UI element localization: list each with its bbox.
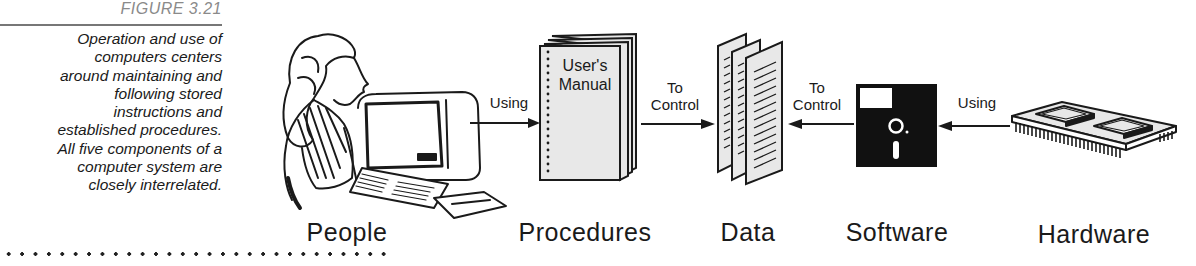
arrow-right-icon <box>470 117 540 129</box>
floppy-disk-icon <box>856 84 938 168</box>
arrow-label-line1: To <box>640 79 710 96</box>
arrow-label-line2: Control <box>640 96 710 113</box>
caption-rule <box>0 24 222 26</box>
component-label-data: Data <box>708 218 788 246</box>
component-label-procedures: Procedures <box>510 218 660 246</box>
arrow-label-to-control-2: To Control <box>782 79 852 113</box>
arrow-label-line1: To <box>782 79 852 96</box>
arrow-label-line2: Control <box>782 96 852 113</box>
manual-title: User's Manual <box>552 56 618 94</box>
manual-title-line1: User's <box>552 56 618 75</box>
arrow-label-to-control-1: To Control <box>640 79 710 113</box>
documents-icon <box>716 32 788 186</box>
manual-title-line2: Manual <box>552 75 618 94</box>
component-label-software: Software <box>832 218 962 246</box>
arrow-right-icon <box>641 118 715 130</box>
component-label-people: People <box>292 218 402 246</box>
component-label-hardware: Hardware <box>1024 220 1164 248</box>
circuit-board-icon <box>1010 98 1190 170</box>
arrow-label-using-2: Using <box>944 94 1010 111</box>
arrow-left-icon <box>788 118 854 130</box>
manual-book-icon <box>538 32 644 184</box>
figure-caption: Operation and use of computers centers a… <box>0 30 222 195</box>
figure-number: FIGURE 3.21 <box>0 0 222 18</box>
arrow-label-using-1: Using <box>474 94 544 111</box>
dotted-divider <box>0 250 390 258</box>
arrow-left-icon <box>938 120 1010 132</box>
